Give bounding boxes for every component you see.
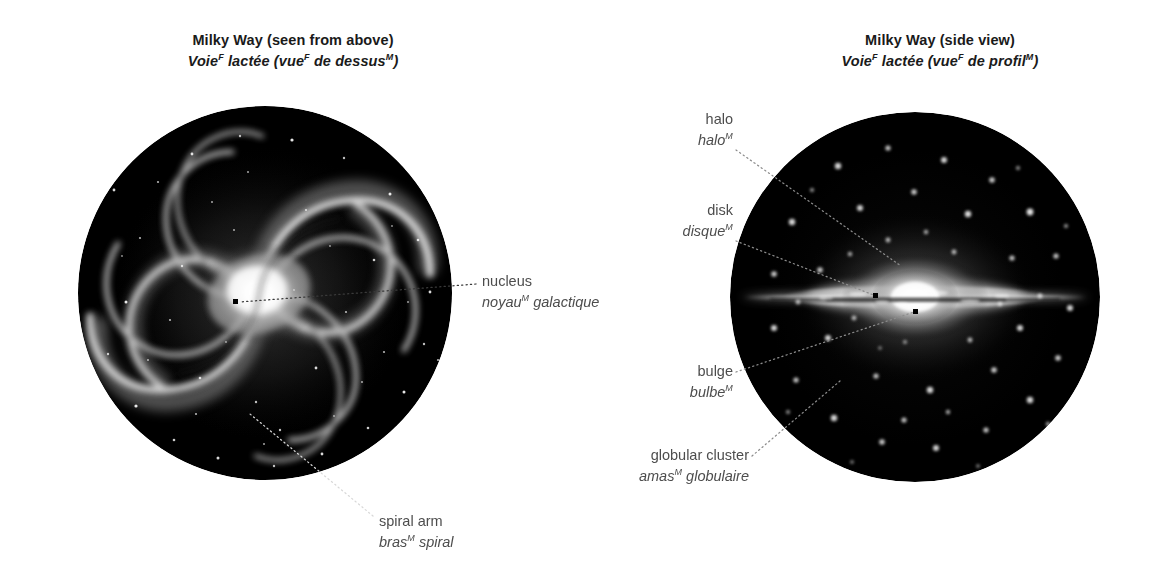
callout-disk-fr: disqueM [593,221,733,241]
callout-globular-cluster[interactable]: globular cluster amasM globulaire [553,446,749,486]
title-right-fr-word2: lactée (vue [878,53,958,69]
callout-globular-cluster-fr: amasM globulaire [553,466,749,486]
callout-halo-gender-marker: M [725,131,733,141]
panel-title-top-view: Milky Way (seen from above) VoieF lactée… [143,30,443,71]
title-left-fr-word4: ) [393,53,398,69]
figure-root: Milky Way (seen from above) VoieF lactée… [0,0,1161,578]
title-left-fr-word1: Voie [188,53,218,69]
title-left-fr-word2: lactée (vue [224,53,304,69]
galaxy-image-side-view [730,112,1100,482]
panel-title-side-view-fr: VoieF lactée (vueF de profilM) [790,51,1090,72]
callout-nucleus-en: nucleus [482,272,599,292]
callout-globular-cluster-en: globular cluster [553,446,749,466]
callout-spiral-arm-gender-marker: M [407,533,415,543]
callout-halo-fr-word: halo [698,131,725,147]
galaxy-image-top-view [78,106,452,480]
callout-spiral-arm-fr-word: bras [379,533,407,549]
callout-spiral-arm-en: spiral arm [379,512,454,532]
callout-globular-cluster-fr-word: amas [639,467,674,483]
callout-spiral-arm-fr-rest: spiral [415,533,454,549]
title-left-fr-word3: de dessus [310,53,386,69]
callout-halo[interactable]: halo haloM [593,110,733,150]
callout-nucleus[interactable]: nucleus noyauM galactique [482,272,599,312]
callout-disk[interactable]: disk disqueM [593,201,733,241]
callout-globular-cluster-gender-marker: M [674,467,682,477]
panel-title-top-view-fr: VoieF lactée (vueF de dessusM) [143,51,443,72]
callout-globular-cluster-fr-rest: globulaire [682,467,749,483]
panel-title-top-view-en: Milky Way (seen from above) [143,30,443,51]
title-right-fr-gender3: M [1026,52,1034,62]
callout-bulge-fr: bulbeM [593,382,733,402]
callout-bulge-fr-word: bulbe [690,383,725,399]
callout-bulge-gender-marker: M [725,383,733,393]
title-right-fr-word4: ) [1034,53,1039,69]
callout-disk-fr-word: disque [683,222,726,238]
callout-nucleus-fr-word: noyau [482,293,522,309]
callout-bulge-en: bulge [593,362,733,382]
title-right-fr-word3: de profil [964,53,1026,69]
callout-bulge[interactable]: bulge bulbeM [593,362,733,402]
callout-halo-en: halo [593,110,733,130]
callout-disk-en: disk [593,201,733,221]
callout-halo-fr: haloM [593,130,733,150]
panel-title-side-view: Milky Way (side view) VoieF lactée (vueF… [790,30,1090,71]
callout-nucleus-fr-rest: galactique [529,293,599,309]
callout-spiral-arm-fr: brasM spiral [379,532,454,552]
callout-disk-gender-marker: M [725,222,733,232]
panel-title-side-view-en: Milky Way (side view) [790,30,1090,51]
callout-nucleus-fr: noyauM galactique [482,292,599,312]
title-right-fr-word1: Voie [842,53,872,69]
callout-spiral-arm[interactable]: spiral arm brasM spiral [379,512,454,552]
